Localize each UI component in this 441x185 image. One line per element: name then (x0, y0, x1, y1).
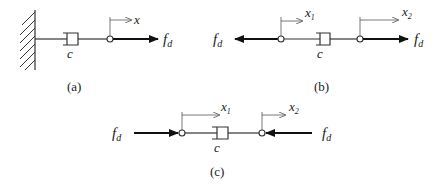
damping-coefficient-label: c (317, 46, 323, 61)
panel-a: x fd c (a) (20, 10, 173, 94)
damping-coefficient-label: c (67, 46, 73, 61)
panel-b: fd fd x1 x2 c (b) (213, 4, 424, 94)
caption-b: (b) (314, 79, 329, 94)
force-label-left: fd (112, 125, 122, 143)
fixed-wall-icon (20, 10, 35, 70)
node (107, 36, 113, 42)
caption-a: (a) (67, 79, 81, 94)
displacement-label-x2: x2 (288, 99, 299, 116)
force-label-right: fd (414, 31, 424, 49)
damper-diagram: x fd c (a) fd fd x1 x2 c (0, 0, 441, 185)
panel-c: fd fd x1 x2 c (c) (112, 99, 332, 179)
node-2 (259, 130, 265, 136)
displacement-label-x1: x1 (220, 99, 231, 116)
node-2 (357, 36, 363, 42)
force-label-left: fd (213, 31, 223, 49)
node-1 (278, 36, 284, 42)
node-1 (179, 130, 185, 136)
caption-c: (c) (210, 164, 224, 179)
force-label-right: fd (322, 125, 332, 143)
displacement-label-x: x (133, 12, 140, 27)
displacement-label-x2: x2 (401, 4, 412, 21)
force-label: fd (163, 31, 173, 49)
damping-coefficient-label: c (214, 140, 220, 155)
displacement-label-x1: x1 (304, 5, 315, 22)
